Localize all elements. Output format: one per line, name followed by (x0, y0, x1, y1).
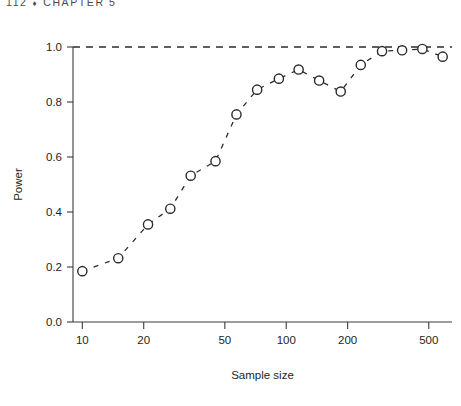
y-axis-title: Power (12, 168, 24, 201)
data-point (211, 157, 220, 166)
data-point (143, 220, 152, 229)
data-point (315, 76, 324, 85)
y-tick-label: 0.8 (46, 96, 62, 108)
x-tick-label: 200 (338, 334, 357, 346)
data-point (232, 110, 241, 119)
power-curve-chart: 0.00.20.40.60.81.0 102050100200500 Power… (0, 0, 461, 406)
data-point (418, 44, 427, 53)
y-tick-label: 0.2 (46, 261, 62, 273)
data-point (78, 267, 87, 276)
x-tick-label: 10 (76, 334, 89, 346)
data-point (336, 87, 345, 96)
data-point (186, 171, 195, 180)
data-point (438, 52, 447, 61)
data-point (294, 65, 303, 74)
y-tick-label: 0.4 (46, 206, 63, 218)
y-axis-ticks: 0.00.20.40.60.81.0 (46, 41, 73, 328)
x-tick-label: 20 (137, 334, 150, 346)
data-point (398, 46, 407, 55)
x-tick-label: 100 (277, 334, 296, 346)
chart-svg: 0.00.20.40.60.81.0 102050100200500 Power… (0, 0, 461, 406)
axes-group (73, 47, 452, 322)
data-point (377, 47, 386, 56)
series-line-group (82, 49, 442, 271)
y-tick-label: 0.6 (46, 151, 62, 163)
data-point (274, 74, 283, 83)
y-tick-label: 1.0 (46, 41, 62, 53)
x-axis-ticks: 102050100200500 (76, 322, 438, 346)
data-point (114, 254, 123, 263)
data-point (356, 60, 365, 69)
x-axis-title: Sample size (231, 369, 294, 381)
series-connector-line (82, 49, 442, 271)
x-tick-label: 50 (218, 334, 231, 346)
data-point (253, 85, 262, 94)
y-tick-label: 0.0 (46, 316, 62, 328)
x-tick-label: 500 (419, 334, 438, 346)
data-point (166, 204, 175, 213)
